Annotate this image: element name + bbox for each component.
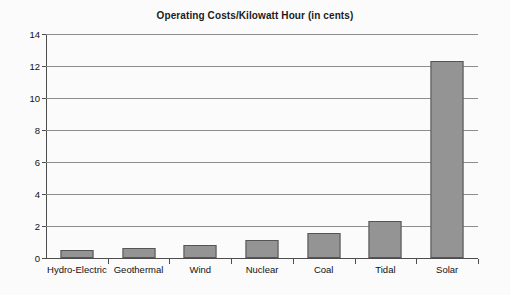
y-axis-tick-mark [42, 258, 46, 259]
bar-slot [46, 34, 108, 258]
y-axis-tick-label: 10 [6, 93, 40, 104]
bar-chart: Operating Costs/Kilowatt Hour (in cents)… [0, 0, 510, 295]
x-axis-tick-mark [169, 259, 170, 264]
x-axis-line [46, 258, 478, 259]
bar-slot [231, 34, 293, 258]
y-axis-tick-mark [42, 226, 46, 227]
y-axis-tick-mark [42, 34, 46, 35]
bar [60, 250, 93, 258]
bar-slot [355, 34, 417, 258]
bar [184, 245, 217, 258]
x-axis-tick-mark [231, 259, 232, 264]
x-axis-tick-mark [416, 259, 417, 264]
bar [307, 233, 340, 258]
x-axis-tick-label: Solar [402, 264, 492, 275]
y-axis-tick-label: 4 [6, 189, 40, 200]
bar [431, 61, 464, 258]
y-axis-tick-label: 6 [6, 157, 40, 168]
x-axis-tick-mark [478, 259, 479, 264]
bar [369, 221, 402, 258]
y-axis-tick-mark [42, 130, 46, 131]
plot-area [46, 34, 478, 258]
x-axis-tick-mark [293, 259, 294, 264]
y-axis-tick-mark [42, 194, 46, 195]
y-axis-tick-label: 0 [6, 253, 40, 264]
y-axis-tick-mark [42, 98, 46, 99]
y-axis-tick-label: 8 [6, 125, 40, 136]
bar-slot [293, 34, 355, 258]
bar [122, 248, 155, 258]
chart-title: Operating Costs/Kilowatt Hour (in cents) [0, 10, 510, 21]
y-axis-tick-mark [42, 162, 46, 163]
y-axis-tick-mark [42, 66, 46, 67]
bar-slot [416, 34, 478, 258]
bar-slot [108, 34, 170, 258]
x-axis-tick-mark [355, 259, 356, 264]
y-axis-tick-labels: 02468101214 [0, 0, 40, 295]
y-axis-tick-label: 14 [6, 29, 40, 40]
y-axis-tick-label: 12 [6, 61, 40, 72]
y-axis-tick-label: 2 [6, 221, 40, 232]
bar [245, 240, 278, 258]
x-axis-tick-mark [108, 259, 109, 264]
bar-slot [169, 34, 231, 258]
